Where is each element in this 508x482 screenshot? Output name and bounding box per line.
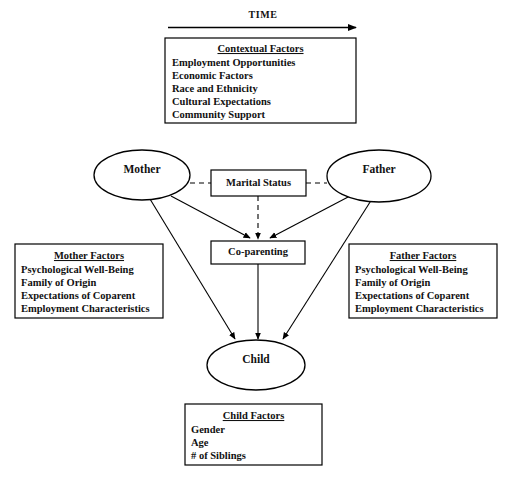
contextual-factors-item: Employment Opportunities (172, 57, 295, 68)
contextual-factors-title: Contextual Factors (217, 43, 303, 54)
child-ellipse (207, 340, 305, 390)
node-father: Father (327, 150, 431, 202)
child-factors-item: Age (191, 437, 209, 448)
coparenting-label: Co-parenting (228, 246, 289, 257)
node-marital-status: Marital Status (211, 170, 306, 196)
mother-factors-item: Psychological Well-Being (21, 264, 134, 275)
node-mother: Mother (94, 150, 190, 200)
mother-label: Mother (123, 163, 160, 175)
father-factors-item: Expectations of Coparent (355, 290, 470, 301)
time-axis: TIME (168, 9, 356, 28)
node-child: Child (207, 340, 305, 390)
mother-factors-box: Mother Factors Psychological Well-Being … (15, 244, 163, 318)
diagram-canvas: TIME Contextual Factors Employment Oppor… (0, 0, 508, 482)
child-factors-item: Gender (191, 424, 225, 435)
father-label: Father (362, 163, 395, 175)
father-factors-title: Father Factors (390, 250, 457, 261)
mother-factors-item: Expectations of Coparent (21, 290, 136, 301)
father-factors-item: Employment Characteristics (355, 303, 484, 314)
connector-mother-coparenting (171, 196, 250, 238)
father-factors-item: Family of Origin (355, 277, 430, 288)
child-factors-title: Child Factors (223, 410, 285, 421)
contextual-factors-item: Community Support (172, 109, 266, 120)
coparenting-model-diagram: TIME Contextual Factors Employment Oppor… (0, 0, 508, 482)
child-factors-box: Child Factors Gender Age # of Siblings (185, 404, 322, 465)
contextual-factors-box: Contextual Factors Employment Opportunit… (165, 38, 356, 123)
father-ellipse (327, 150, 431, 202)
child-label: Child (242, 353, 270, 365)
contextual-factors-item: Race and Ethnicity (172, 83, 259, 94)
mother-factors-title: Mother Factors (54, 250, 124, 261)
connector-father-coparenting (270, 196, 350, 238)
mother-factors-item: Family of Origin (21, 277, 96, 288)
marital-status-label: Marital Status (226, 177, 291, 188)
mother-ellipse (94, 150, 190, 200)
child-factors-item: # of Siblings (191, 450, 246, 461)
time-axis-label: TIME (248, 9, 277, 20)
node-coparenting: Co-parenting (211, 241, 305, 264)
father-factors-box: Father Factors Psychological Well-Being … (349, 244, 497, 318)
contextual-factors-item: Economic Factors (172, 70, 253, 81)
contextual-factors-item: Cultural Expectations (172, 96, 271, 107)
father-factors-item: Psychological Well-Being (355, 264, 468, 275)
mother-factors-item: Employment Characteristics (21, 303, 150, 314)
